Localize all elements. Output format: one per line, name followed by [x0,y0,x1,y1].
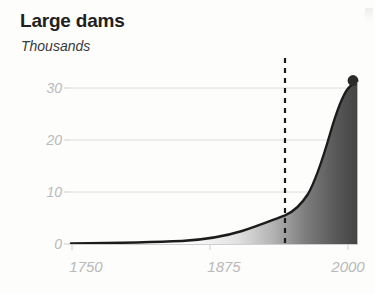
endpoint-marker [348,75,359,86]
x-axis-tick-labels: 1750 1875 2000 [69,258,365,275]
area-fill [71,82,357,244]
scan-artifact [365,8,373,22]
y-tick-label-30: 30 [46,80,62,96]
y-tick-label-0: 0 [54,236,62,252]
x-tick-label-1750: 1750 [69,258,103,275]
y-tick-label-20: 20 [45,132,62,148]
plot-area: 30 20 10 0 1750 1875 2000 [0,0,375,294]
x-tick-label-2000: 2000 [330,258,365,275]
x-tick-label-1875: 1875 [207,258,241,275]
y-axis-tick-labels: 30 20 10 0 [45,80,62,252]
y-tick-label-10: 10 [46,184,62,200]
y-axis-tick-marks [64,88,70,244]
chart-figure: Large dams Thousands 30 20 10 0 [0,0,375,294]
